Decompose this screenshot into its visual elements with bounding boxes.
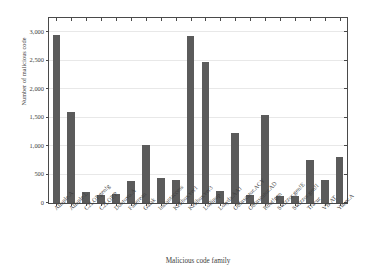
bar-chart-figure: Number of malicious code Malicious code … [0,0,366,276]
y-axis-tick-label: 2,500 [2,56,44,63]
x-axis-tick-mark-top [220,18,221,21]
x-axis-tick-mark-top [56,18,57,21]
y-axis-tick-mark [46,202,49,203]
x-axis-tick-mark-top [191,18,192,21]
y-axis-tick-mark-right [344,117,347,118]
y-axis-tick-label: 3,000 [2,28,44,35]
y-axis-tick-mark [46,88,49,89]
x-axis-tick-mark-top [146,18,147,21]
x-axis-tick-mark-top [205,18,206,21]
x-axis-tick-mark-top [101,18,102,21]
x-axis-tick-mark-top [131,18,132,21]
x-axis-tick-mark-top [295,18,296,21]
x-axis-tick-mark-top [265,18,266,21]
y-axis-tick-mark [46,174,49,175]
x-axis-tick-mark-top [235,18,236,21]
y-axis-tick-label: 1,500 [2,113,44,120]
y-axis-tick-mark [46,31,49,32]
y-axis-tick-label: 500 [2,170,44,177]
y-axis-tick-mark [46,145,49,146]
y-axis-tick-mark-right [344,88,347,89]
x-axis-tick-mark-top [161,18,162,21]
x-axis-tick-mark-top [325,18,326,21]
y-axis-tick-label: 1,000 [2,142,44,149]
y-axis-tick-mark-right [344,60,347,61]
x-axis-tick-mark-top [116,18,117,21]
y-axis-tick-mark-right [344,31,347,32]
y-axis-tick-mark-right [344,174,347,175]
x-axis-tick-mark-top [310,18,311,21]
x-axis-tick-mark-top [250,18,251,21]
y-axis-tick-label: 2,000 [2,85,44,92]
y-axis-tick-mark [46,117,49,118]
tick-layer [49,18,347,203]
x-axis-tick-mark-top [71,18,72,21]
y-axis-tick-mark [46,60,49,61]
x-axis-tick-mark-top [340,18,341,21]
x-axis-title: Malicious code family [48,257,348,265]
x-axis-tick-mark-top [280,18,281,21]
plot-area [48,17,348,204]
x-axis-tick-mark-top [86,18,87,21]
x-axis-tick-mark-top [176,18,177,21]
y-axis-tick-label: 0 [2,199,44,206]
y-axis-tick-mark-right [344,145,347,146]
